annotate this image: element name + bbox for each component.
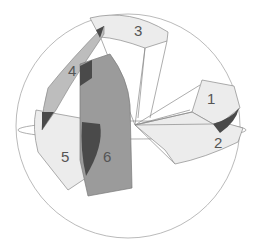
label-4: 4 <box>68 62 76 79</box>
sphere-diagram: 3 1 2 4 5 6 <box>0 0 257 251</box>
sphere-svg: 3 1 2 4 5 6 <box>0 0 257 251</box>
label-3: 3 <box>134 22 142 39</box>
label-2: 2 <box>214 134 222 151</box>
label-1: 1 <box>207 90 215 107</box>
label-6: 6 <box>103 148 111 165</box>
label-5: 5 <box>61 148 69 165</box>
